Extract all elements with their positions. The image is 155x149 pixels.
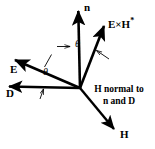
vector-n-line — [78, 11, 80, 88]
tick-on-exh-vector — [97, 51, 110, 60]
vector-label-exh-superscript: * — [130, 16, 134, 25]
vector-label-exh-text: E×H — [108, 18, 130, 30]
vector-label-d: D — [6, 88, 14, 100]
angle-label-theta-top: θ — [75, 39, 80, 50]
vector-d-line — [9, 87, 80, 89]
h-normal-note: H normal to n and D — [86, 84, 152, 108]
vector-label-e: E — [10, 64, 17, 76]
vector-label-h: H — [120, 129, 129, 141]
vector-label-n: n — [84, 2, 90, 14]
h-normal-note-line-1: H normal to — [86, 84, 152, 96]
theta-left-pointer — [40, 89, 44, 99]
h-normal-note-line-2: n and D — [86, 96, 152, 108]
vector-exh-line — [80, 26, 104, 88]
vector-diagram-figure: n E×H* E D H θ θ H normal to n and D — [0, 0, 155, 149]
vector-label-exh: E×H* — [108, 17, 134, 30]
angle-label-theta-left: θ — [43, 67, 48, 78]
